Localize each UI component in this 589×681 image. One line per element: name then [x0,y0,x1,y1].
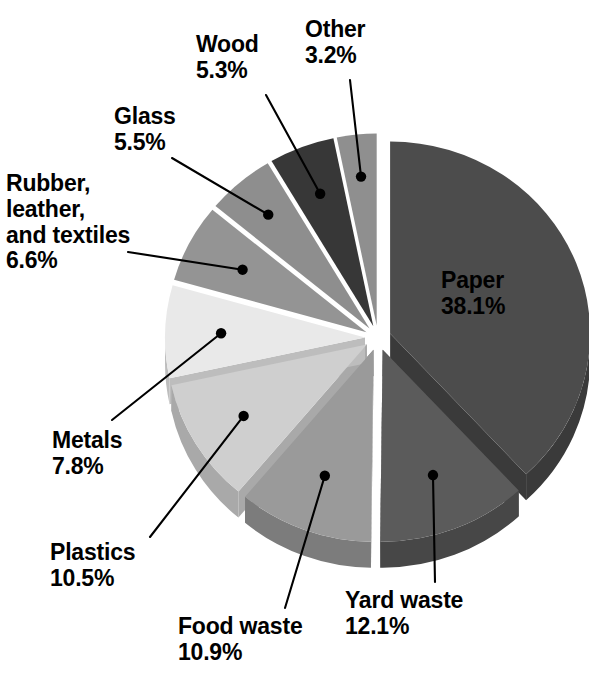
leader-dot-metals [216,328,226,338]
slice-label-paper: Paper 38.1% [441,268,505,320]
pie-slices-group [165,134,589,568]
leader-dot-wood [315,189,325,199]
slice-label-plastics: Plastics 10.5% [50,540,135,592]
slice-label-glass: Glass 5.5% [114,104,176,156]
leader-dot-plastics [238,411,248,421]
leader-dot-rubber [237,264,247,274]
leader-dot-glass [263,209,273,219]
leader-dot-yard [428,470,438,480]
leader-dot-food [320,471,330,481]
leader-dot-other [356,171,366,181]
slice-label-rubber-leather-textiles: Rubber, leather, and textiles 6.6% [6,171,130,274]
slice-label-other: Other 3.2% [305,17,365,69]
slice-label-metals: Metals 7.8% [52,428,122,480]
slice-label-yard-waste: Yard waste 12.1% [345,588,463,640]
slice-label-wood: Wood 5.3% [196,32,259,84]
slice-label-food-waste: Food waste 10.9% [178,614,303,666]
pie-chart-figure: Paper 38.1% Wood 5.3% Other 3.2% Glass 5… [0,0,589,681]
